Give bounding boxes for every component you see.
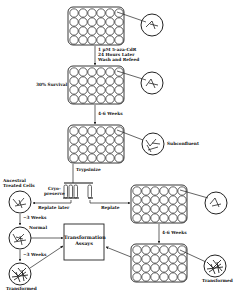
plate-5 — [131, 244, 187, 282]
replate-later-label: Replate later — [38, 205, 69, 210]
plate-4 — [131, 185, 187, 223]
workflow-diagram — [0, 0, 237, 291]
weeks-3-b-label: ~3 Weeks — [23, 252, 46, 257]
treatment-label: 1 μM 5-aza-CdR 24 Hours Later Wash and R… — [98, 47, 139, 62]
trypsinize-label: Trypsinize — [76, 167, 101, 172]
transformation-assays-label: Transformation Assays — [64, 234, 104, 246]
transformed-right-label: Transformed — [202, 278, 233, 283]
cryo-tubes — [64, 185, 92, 198]
cryopreserve-label: Cryo- preserve — [44, 186, 65, 196]
cell-dish-sparse-right — [205, 192, 227, 214]
cell-dish-sparse-2 — [141, 72, 163, 94]
plate-3 — [68, 125, 124, 163]
ancestral-label: Ancestral Treated Cells — [3, 178, 35, 188]
survival-label: 30% Survival — [36, 82, 67, 87]
weeks-3-a-label: ~3 Weeks — [23, 215, 46, 220]
subconfluent-label: Subconfluent — [167, 141, 199, 146]
plate-1 — [68, 7, 124, 45]
replate-label: Replate — [101, 205, 119, 210]
weeks-4-6-right-label: 4-6 Weeks — [162, 230, 187, 235]
cell-dish-subconfluent — [142, 133, 164, 155]
plate-2 — [68, 66, 124, 104]
cell-dish-sparse-1 — [141, 14, 163, 36]
normal-label: Normal — [29, 225, 47, 230]
weeks-4-6-top-label: 4-6 Weeks — [98, 111, 123, 116]
transformed-left-label: Transformed — [6, 286, 37, 291]
